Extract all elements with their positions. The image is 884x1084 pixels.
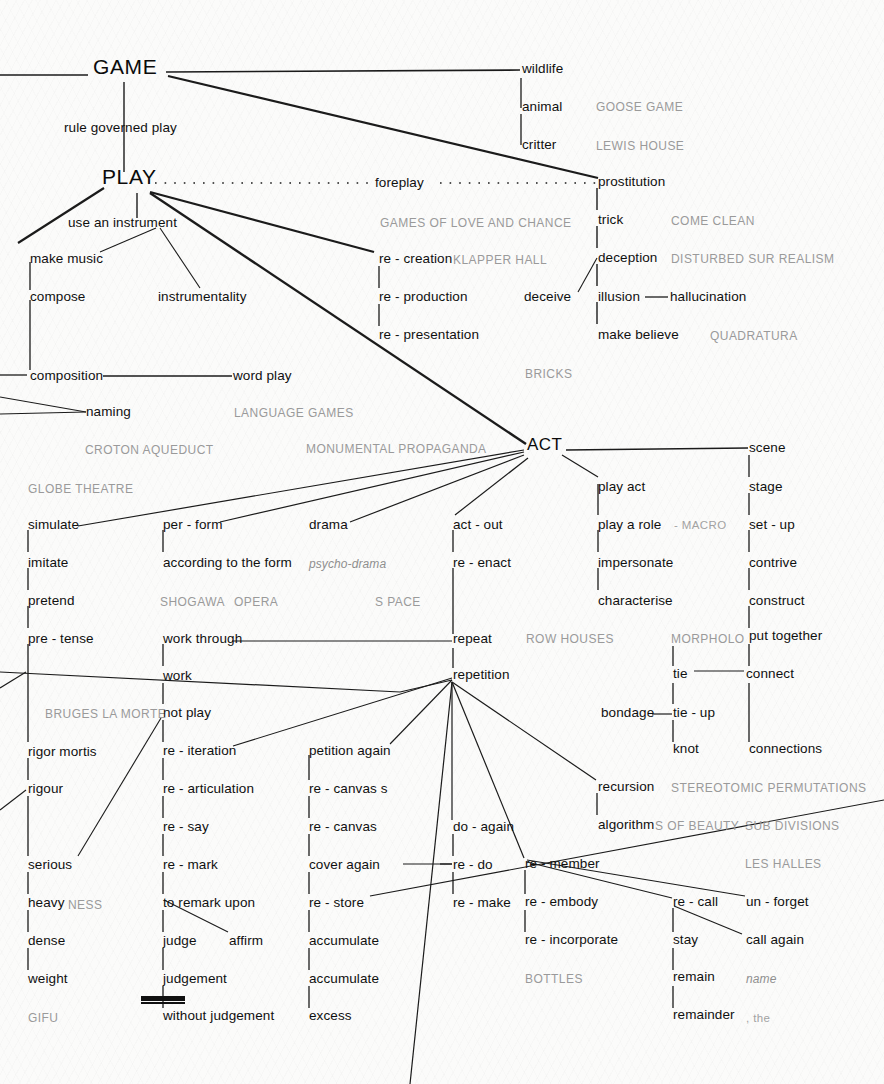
label-construct[interactable]: construct <box>749 594 805 608</box>
label-drama[interactable]: drama <box>309 518 348 532</box>
label-rule-governed-play[interactable]: rule governed play <box>64 121 177 135</box>
label-stage[interactable]: stage <box>749 480 783 494</box>
label-affirm[interactable]: affirm <box>229 934 263 948</box>
label-the[interactable]: , the <box>746 1011 770 1025</box>
label-les-halles[interactable]: LES HALLES <box>745 857 822 871</box>
label-imitate[interactable]: imitate <box>28 556 68 570</box>
label-re-canvas-s[interactable]: re - canvas s <box>309 782 388 796</box>
label-per-form[interactable]: per - form <box>163 518 223 532</box>
label-weight[interactable]: weight <box>28 972 68 986</box>
label-bottles[interactable]: BOTTLES <box>525 972 583 986</box>
label-repeat[interactable]: repeat <box>453 632 492 646</box>
label-language-games[interactable]: LANGUAGE GAMES <box>234 406 354 420</box>
label-naming[interactable]: naming <box>86 405 131 419</box>
label-goose-game[interactable]: GOOSE GAME <box>596 100 683 114</box>
label-gifu[interactable]: GIFU <box>28 1011 58 1025</box>
label-serious[interactable]: serious <box>28 858 72 872</box>
label-bruges-la-morte[interactable]: BRUGES LA MORTE <box>45 707 166 721</box>
label-connections[interactable]: connections <box>749 742 822 756</box>
label-excess[interactable]: excess <box>309 1009 352 1023</box>
node-act[interactable]: ACT <box>527 438 562 452</box>
label-un-forget[interactable]: un - forget <box>746 895 809 909</box>
label-klapper-hall[interactable]: KLAPPER HALL <box>453 253 547 267</box>
label-re-say[interactable]: re - say <box>163 820 209 834</box>
label-s-pace[interactable]: S PACE <box>375 595 421 609</box>
label-instrumentality[interactable]: instrumentality <box>158 290 247 304</box>
label-accumulate-1[interactable]: accumulate <box>309 934 379 948</box>
label-judgement[interactable]: judgement <box>163 972 227 986</box>
label-put-together[interactable]: put together <box>749 629 822 643</box>
label-ness[interactable]: NESS <box>68 898 102 912</box>
label-critter[interactable]: critter <box>522 138 556 152</box>
label-come-clean[interactable]: COME CLEAN <box>671 214 755 228</box>
node-play[interactable]: PLAY <box>102 170 157 184</box>
label-sub-divisions[interactable]: SUB DIVISIONS <box>745 819 840 833</box>
label-to-remark-upon[interactable]: to remark upon <box>163 896 255 910</box>
label-deception[interactable]: deception <box>598 251 657 265</box>
label-re-presentation[interactable]: re - presentation <box>379 328 479 342</box>
label-pretend[interactable]: pretend <box>28 594 75 608</box>
label-trick[interactable]: trick <box>598 213 623 227</box>
label-disturbed-sur-realism[interactable]: DISTURBED SUR REALISM <box>671 252 834 266</box>
label-animal[interactable]: animal <box>522 100 562 114</box>
label-remainder[interactable]: remainder <box>673 1008 735 1022</box>
label-impersonate[interactable]: impersonate <box>598 556 673 570</box>
label-rigour[interactable]: rigour <box>28 782 63 796</box>
label-work[interactable]: work <box>163 669 192 683</box>
label-recursion[interactable]: recursion <box>598 780 654 794</box>
label-petition-again[interactable]: petition again <box>309 744 391 758</box>
label-set-up[interactable]: set - up <box>749 518 795 532</box>
label-opera[interactable]: OPERA <box>234 595 278 609</box>
label-simulate[interactable]: simulate <box>28 518 79 532</box>
label-games-of-love-and-chance[interactable]: GAMES OF LOVE AND CHANCE <box>380 216 572 230</box>
label-s-of-beauty[interactable]: S OF BEAUTY <box>655 819 739 833</box>
label-prostitution[interactable]: prostitution <box>598 175 665 189</box>
label-row-houses[interactable]: ROW HOUSES <box>526 632 614 646</box>
label-stay[interactable]: stay <box>673 933 698 947</box>
label-globe-theatre[interactable]: GLOBE THEATRE <box>28 482 133 496</box>
label-use-an-instrument[interactable]: use an instrument <box>68 216 177 230</box>
label-re-embody[interactable]: re - embody <box>525 895 598 909</box>
label-accumulate-2[interactable]: accumulate <box>309 972 379 986</box>
label-algorithm[interactable]: algorithm <box>598 818 654 832</box>
label-repetition[interactable]: repetition <box>453 668 510 682</box>
label-knot[interactable]: knot <box>673 742 699 756</box>
label-re-incorporate[interactable]: re - incorporate <box>525 933 618 947</box>
label-dense[interactable]: dense <box>28 934 65 948</box>
label-re-production[interactable]: re - production <box>379 290 468 304</box>
label-not-play[interactable]: not play <box>163 706 211 720</box>
label-judge[interactable]: judge <box>163 934 197 948</box>
label-foreplay[interactable]: foreplay <box>375 176 424 190</box>
label-contrive[interactable]: contrive <box>749 556 797 570</box>
label-tie[interactable]: tie <box>673 667 688 681</box>
label-call-again[interactable]: call again <box>746 933 804 947</box>
label-characterise[interactable]: characterise <box>598 594 673 608</box>
label-macro[interactable]: - MACRO <box>674 518 727 532</box>
label-shogawa[interactable]: SHOGAWA <box>160 595 225 609</box>
label-deceive[interactable]: deceive <box>524 290 571 304</box>
label-re-make[interactable]: re - make <box>453 896 511 910</box>
label-re-member[interactable]: re - member <box>525 857 600 871</box>
label-compose[interactable]: compose <box>30 290 85 304</box>
label-tie-up[interactable]: tie - up <box>673 706 715 720</box>
label-heavy[interactable]: heavy <box>28 896 65 910</box>
label-without-judgement[interactable]: without judgement <box>163 1009 274 1023</box>
label-lewis-house[interactable]: LEWIS HOUSE <box>596 139 684 153</box>
label-bondage[interactable]: bondage <box>601 706 654 720</box>
label-word-play[interactable]: word play <box>233 369 292 383</box>
label-cover-again[interactable]: cover again <box>309 858 380 872</box>
label-re-iteration[interactable]: re - iteration <box>163 744 236 758</box>
label-scene[interactable]: scene <box>749 441 786 455</box>
label-re-store[interactable]: re - store <box>309 896 364 910</box>
label-quadratura[interactable]: QUADRATURA <box>710 329 798 343</box>
label-bricks[interactable]: BRICKS <box>525 367 572 381</box>
label-according-to-the-form[interactable]: according to the form <box>163 556 292 570</box>
label-wildlife[interactable]: wildlife <box>522 62 563 76</box>
label-illusion[interactable]: illusion <box>598 290 640 304</box>
label-hallucination[interactable]: hallucination <box>670 290 746 304</box>
label-croton-aqueduct[interactable]: CROTON AQUEDUCT <box>85 443 214 457</box>
label-connect[interactable]: connect <box>746 667 794 681</box>
label-work-through[interactable]: work through <box>163 632 242 646</box>
label-re-creation[interactable]: re - creation <box>379 252 452 266</box>
label-play-act[interactable]: play act <box>598 480 645 494</box>
